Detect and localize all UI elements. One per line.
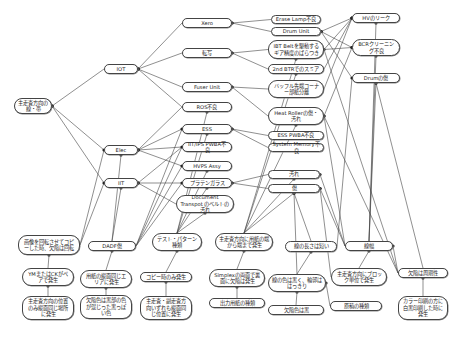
node-label: HVPS Assy (193, 163, 221, 170)
node-label: テスト・パターン種類 (156, 236, 198, 249)
node-erase[interactable]: Erase Lamp不良 (271, 15, 321, 24)
node-copy[interactable]: コピー時のみ発生 (140, 272, 192, 282)
edge-connector (324, 48, 352, 117)
node-color_l[interactable]: カラー印刷の方に白黒印刷した時に発生 (398, 296, 448, 320)
node-r1[interactable]: 画像を回転させてコピーした時、欠陥は回転 (18, 235, 80, 255)
node-label: 線の長さは短い (294, 243, 329, 250)
node-iitips[interactable]: IIT/IPS PWBA不良 (182, 142, 232, 152)
edge-connector (112, 155, 121, 241)
node-gen[interactable]: 原稿の種類 (330, 301, 382, 311)
node-label: HVのリーク (362, 15, 389, 22)
edge-connector (244, 193, 294, 233)
edge-connector (138, 69, 182, 87)
edge-connector (326, 283, 330, 306)
node-xero[interactable]: Xero (182, 18, 232, 28)
node-label: 主走査方向の位置のみ縦面同じ場所に発生 (26, 298, 70, 318)
edge-connector (48, 255, 49, 268)
edge-connector (138, 53, 182, 69)
node-fuser[interactable]: Fuser Unit (182, 82, 232, 92)
node-color[interactable]: 線の色は黒く、輪郭ははっきり (268, 274, 326, 292)
edge-connector (138, 69, 182, 107)
node-2nd[interactable]: 2nd BTRでのスミア (268, 64, 324, 74)
edge-connector (232, 129, 268, 136)
edge-connector (232, 50, 268, 54)
edge-connector (166, 251, 177, 272)
node-label: ROS不良 (197, 104, 218, 111)
node-dadf[interactable]: DADF傷 (88, 241, 136, 251)
node-label: IIT/IPS PWBA不良 (186, 141, 228, 154)
node-label: バッフル先端コーナー部紙分離 (272, 83, 320, 96)
node-len[interactable]: 線の長さは短い (285, 241, 337, 252)
node-tensha[interactable]: 転写 (182, 48, 232, 58)
node-sen[interactable]: 線幅 (345, 241, 393, 251)
node-sub[interactable]: 主走査方向に用紙の端から端まで発生 (215, 233, 273, 251)
node-heat[interactable]: Heat Rollerの傷・汚れ (268, 107, 324, 125)
node-ros[interactable]: ROS不良 (182, 102, 232, 112)
node-sysmem[interactable]: System Memory不良 (268, 143, 324, 152)
node-bafuru[interactable]: バッフル先端コーナー部紙分離 (268, 80, 324, 98)
edge-connector (337, 78, 352, 247)
edge-connector (106, 251, 112, 270)
node-iit[interactable]: IIT (104, 178, 138, 188)
node-label: Document Transpot のベルトの汚れ (180, 194, 230, 214)
node-kekkan[interactable]: 欠陥は周期性 (398, 268, 448, 278)
edge-connector (294, 193, 311, 241)
edge-connector (232, 129, 268, 148)
node-drumkizu[interactable]: Drumの傷 (352, 73, 400, 83)
node-kizu[interactable]: 傷 (268, 184, 320, 193)
node-label: System Memory不良 (272, 141, 320, 154)
edge-connector (136, 129, 182, 246)
node-label: プラテンガラス (190, 180, 225, 187)
node-label: 用紙の縦面同じエリアに発生 (84, 273, 128, 286)
node-test[interactable]: テスト・パターン種類 (152, 233, 202, 251)
edge-connector (232, 87, 268, 116)
edge-connector (138, 147, 182, 150)
edge-connector (136, 147, 182, 246)
node-hvps[interactable]: HVPS Assy (182, 161, 232, 171)
node-label: 主走査方向に用紙の端から端まで発生 (219, 236, 269, 249)
node-label: コピー時のみ発生 (146, 274, 186, 281)
node-both[interactable]: 主走査・副走査方向いずれも縦面同じ位置に発生 (140, 296, 192, 320)
node-label: ESS (202, 126, 212, 133)
node-output[interactable]: 出力用紙の種類 (209, 298, 265, 308)
node-platen[interactable]: プラテンガラス (182, 178, 232, 188)
node-label: Erase Lamp不良 (276, 16, 317, 23)
edge-connector (232, 53, 268, 69)
node-label: Drumの傷 (364, 75, 388, 82)
node-paper[interactable]: 用紙の縦面同じエリアに発生 (80, 270, 132, 288)
node-ymc[interactable]: YMまたはCKがペアで発生 (22, 268, 74, 286)
node-label: 2nd BTRでのスミア (273, 66, 320, 73)
node-only[interactable]: 主走査方向の位置のみ縦面同じ場所に発生 (22, 296, 74, 320)
node-iot[interactable]: IOT (104, 64, 138, 74)
node-elec[interactable]: Elec (104, 145, 138, 155)
node-simplex[interactable]: Simplexの両面で裏面に欠陥は発生 (209, 269, 265, 287)
node-block[interactable]: 主走査方向にブロック単位で発生 (331, 268, 387, 286)
edge-connector (296, 292, 297, 305)
node-label: 出力用紙の種類 (220, 300, 255, 307)
node-label: 欠陥色は黒 (284, 307, 309, 314)
edge-connector (237, 251, 244, 269)
node-label: Elec (116, 147, 127, 154)
edge-connector (80, 183, 104, 245)
node-label: ESS PWBA不良 (278, 132, 315, 139)
edge-connector (138, 23, 182, 69)
edge-connector (80, 150, 104, 245)
node-kbk[interactable]: 欠陥色は黒 (268, 305, 324, 315)
node-hv[interactable]: HVのリーク (352, 13, 400, 23)
edge-connector (324, 18, 352, 69)
node-yogore[interactable]: 汚れ (268, 170, 320, 179)
edge-connector (52, 69, 104, 106)
node-ess[interactable]: ESS (182, 124, 232, 134)
node-main[interactable]: 主走査方向の線・帯 (14, 98, 52, 114)
node-label: IIT (118, 180, 124, 187)
edge-connector (324, 116, 345, 246)
node-doc[interactable]: Document Transpot のベルトの汚れ (176, 195, 234, 213)
edge-connector (52, 106, 104, 183)
edge-connector (232, 183, 268, 189)
node-ibt[interactable]: IBT Beltを駆動するギア精度のばらつき (268, 40, 324, 59)
node-drum[interactable]: Drum Unit (271, 27, 321, 36)
node-esspwba[interactable]: ESS PWBA不良 (268, 131, 324, 140)
node-kakeiro[interactable]: 欠陥色は黒部の色が混じった黒っぽい色 (80, 295, 132, 319)
node-label: IOT (117, 66, 126, 73)
node-bcr[interactable]: BCRクリーニング不良 (352, 39, 400, 56)
